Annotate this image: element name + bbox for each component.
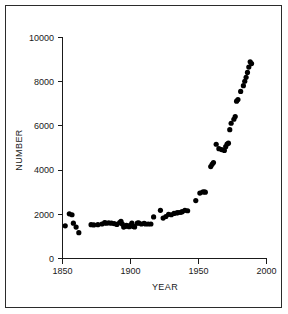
data-point (211, 160, 216, 165)
x-axis-ticks: 1850190019502000 (52, 259, 276, 277)
data-point (193, 198, 198, 203)
data-point-group (63, 59, 255, 235)
x-tick-label: 2000 (256, 266, 276, 276)
y-tick-label: 2000 (34, 210, 54, 220)
x-axis-title: YEAR (152, 282, 178, 292)
data-point (244, 75, 249, 80)
figure-container: 0200040006000800010000 1850190019502000 … (0, 0, 288, 314)
x-tick-label: 1950 (188, 266, 208, 276)
data-point (249, 61, 254, 66)
y-axis-title: NUMBER (14, 129, 24, 171)
data-point (238, 89, 243, 94)
data-point (151, 214, 156, 219)
x-tick-label: 1850 (52, 266, 72, 276)
y-tick-label: 8000 (34, 77, 54, 87)
data-point (76, 230, 81, 235)
data-point (235, 97, 240, 102)
data-point (227, 127, 232, 132)
data-point (245, 70, 250, 75)
y-tick-label: 4000 (34, 165, 54, 175)
scatter-plot: 0200040006000800010000 1850190019502000 … (0, 0, 288, 314)
y-tick-label: 6000 (34, 121, 54, 131)
y-tick-label: 10000 (29, 33, 54, 43)
data-point (148, 221, 153, 226)
y-axis-ticks: 0200040006000800010000 (29, 33, 63, 264)
data-point (63, 223, 68, 228)
y-tick-label: 0 (49, 254, 54, 264)
data-point (203, 190, 208, 195)
data-point (158, 208, 163, 213)
data-point (74, 225, 79, 230)
data-point (185, 208, 190, 213)
data-point (214, 142, 219, 147)
data-point (69, 212, 74, 217)
data-point (233, 114, 238, 119)
data-point (241, 83, 246, 88)
data-point (226, 141, 231, 146)
x-tick-label: 1900 (120, 266, 140, 276)
